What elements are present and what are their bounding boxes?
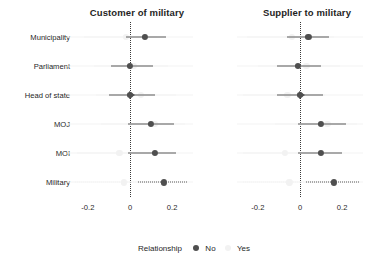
legend-label-no: No [205, 244, 215, 253]
point-estimate[interactable] [286, 179, 292, 185]
legend-title: Relationship [138, 244, 182, 253]
x-axis-tick-label: 0.2 [337, 203, 348, 212]
y-axis-label: MOJ [0, 120, 70, 129]
panel-supplier-to-military [241, 22, 359, 197]
y-axis-label: MOI [0, 149, 70, 158]
point-estimate[interactable] [331, 179, 337, 185]
y-axis-label: Parliament [0, 61, 70, 70]
point-estimate[interactable] [318, 121, 324, 127]
y-axis-label: Head of state [0, 90, 70, 99]
y-axis-label: Municipality [0, 32, 70, 41]
x-axis-tick-label: -0.2 [81, 203, 94, 212]
x-axis-tick-label: 0 [128, 203, 132, 212]
point-estimate[interactable] [318, 150, 324, 156]
legend-key-no[interactable]: No [193, 244, 216, 253]
point-estimate[interactable] [116, 150, 122, 156]
point-estimate[interactable] [142, 33, 148, 39]
point-estimate[interactable] [282, 150, 288, 156]
x-axis-tick-label: -0.2 [251, 203, 264, 212]
y-axis-label: Military [0, 178, 70, 187]
legend-label-yes: Yes [237, 244, 250, 253]
panel-title-supplier-to-military: Supplier to military [248, 7, 366, 18]
arrow-marker-icon [129, 91, 135, 99]
panel-customer-of-military [71, 22, 189, 197]
point-estimate[interactable] [152, 150, 158, 156]
forest-plot-figure: Customer of military Supplier to militar… [0, 0, 388, 261]
arrow-marker-icon [299, 91, 305, 99]
point-estimate[interactable] [161, 179, 167, 185]
point-estimate[interactable] [305, 33, 311, 39]
legend-dot-no-icon [193, 245, 199, 251]
x-axis-tick-label: 0.2 [167, 203, 178, 212]
legend: Relationship No Yes [0, 240, 388, 256]
x-axis-tick-label: 0 [298, 203, 302, 212]
zero-reference-line [300, 22, 301, 197]
legend-key-yes[interactable]: Yes [225, 244, 250, 253]
point-estimate[interactable] [121, 179, 127, 185]
panel-title-customer-of-military: Customer of military [78, 7, 196, 18]
legend-dot-yes-icon [225, 245, 231, 251]
zero-reference-line [130, 22, 131, 197]
